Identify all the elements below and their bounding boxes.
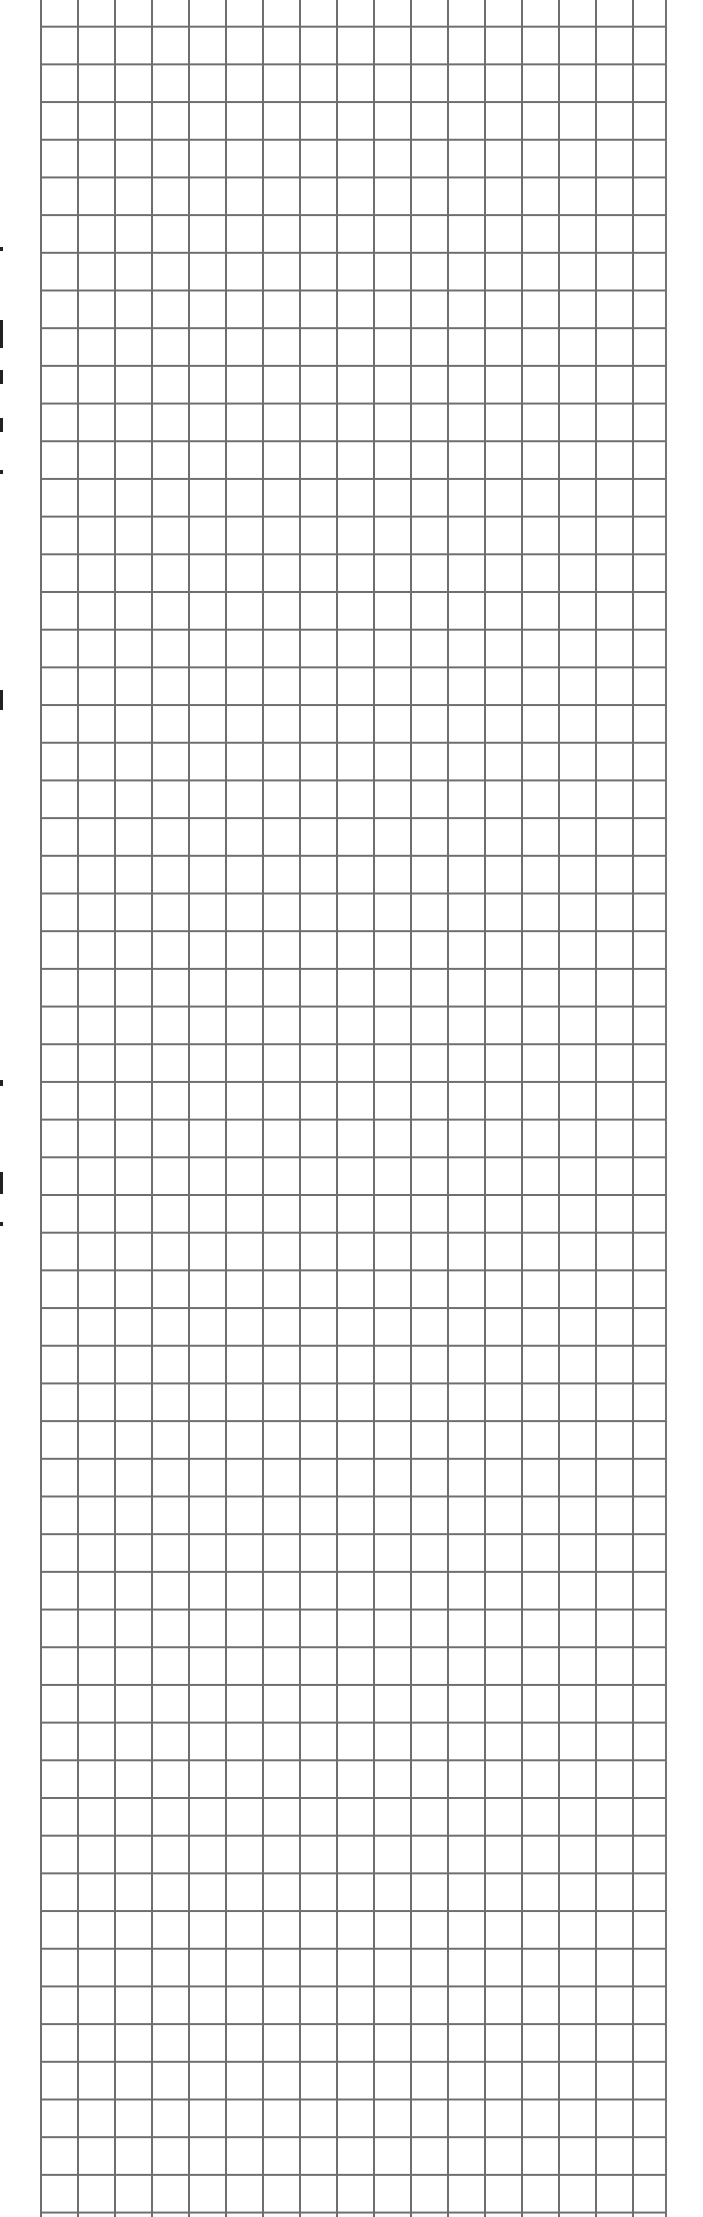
margin-mark xyxy=(0,1172,3,1194)
margin-mark xyxy=(0,1080,3,1086)
margin-mark xyxy=(0,418,3,432)
margin-mark xyxy=(0,470,3,474)
margin-mark xyxy=(0,320,3,348)
margin-mark xyxy=(0,370,3,384)
right-edge-fade xyxy=(665,0,703,2217)
grid-lines xyxy=(40,0,667,2217)
graph-paper-sheet xyxy=(0,0,703,2217)
margin-mark xyxy=(0,1222,3,1226)
margin-mark xyxy=(0,690,3,710)
margin-mark xyxy=(0,247,3,251)
